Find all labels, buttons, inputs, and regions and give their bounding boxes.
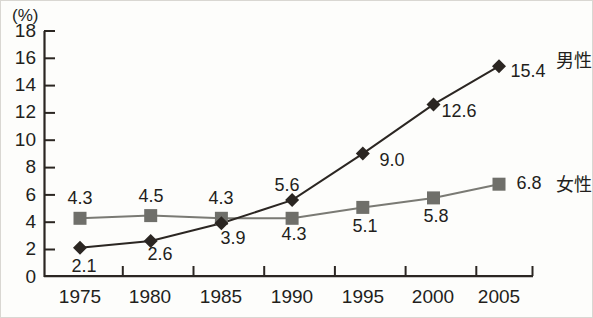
y-tick-label: 14 <box>8 74 36 96</box>
data-label-female-1980: 4.5 <box>129 186 173 207</box>
x-tick-label: 1990 <box>257 286 327 308</box>
x-tick-label: 2005 <box>464 286 534 308</box>
y-axis-ticks <box>44 31 55 250</box>
data-label-female-2005: 6.8 <box>507 173 551 194</box>
y-tick-label: 16 <box>8 47 36 69</box>
y-tick-label: 8 <box>8 156 36 178</box>
data-label-female-1990: 4.3 <box>272 224 316 245</box>
legend-label-male: 男性 <box>556 46 592 72</box>
data-label-male-2000: 12.6 <box>437 101 481 122</box>
y-tick-label: 18 <box>8 20 36 42</box>
x-tick-label: 1985 <box>186 286 256 308</box>
chart-figure: (%) <box>0 0 593 318</box>
data-label-male-1995: 9.0 <box>370 150 414 171</box>
data-label-female-1995: 5.1 <box>343 216 387 237</box>
data-label-male-1975: 2.1 <box>62 256 106 277</box>
data-label-female-1985: 4.3 <box>199 188 243 209</box>
y-tick-label: 12 <box>8 101 36 123</box>
x-tick-label: 1975 <box>45 286 115 308</box>
x-axis-ticks <box>123 266 533 276</box>
data-label-female-2000: 5.8 <box>414 206 458 227</box>
y-tick-label: 10 <box>8 129 36 151</box>
data-label-male-1985: 3.9 <box>211 228 255 249</box>
y-tick-label: 2 <box>8 238 36 260</box>
data-label-male-1990: 5.6 <box>265 175 309 196</box>
x-tick-label: 1980 <box>115 286 185 308</box>
y-tick-label: 0 <box>8 266 36 288</box>
x-tick-label: 1995 <box>328 286 398 308</box>
data-label-male-1980: 2.6 <box>138 244 182 265</box>
y-tick-label: 6 <box>8 184 36 206</box>
data-label-male-2005: 15.4 <box>506 61 550 82</box>
x-tick-label: 2000 <box>398 286 468 308</box>
y-tick-label: 4 <box>8 211 36 233</box>
legend-label-female: 女性 <box>556 170 592 196</box>
data-label-female-1975: 4.3 <box>58 188 102 209</box>
